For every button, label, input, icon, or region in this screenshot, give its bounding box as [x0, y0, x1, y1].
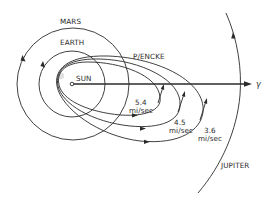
trajectory-3-6-tip-arrow [204, 98, 207, 104]
trajectory-4-5 [57, 59, 185, 131]
comet-label: P/ENCKE [133, 52, 165, 61]
trajectory-3-6-unit: mi/sec [198, 134, 222, 143]
vernal-equinox-symbol: γ [256, 80, 262, 89]
jupiter-label: JUPITER [220, 161, 249, 170]
orbit-diagram: MARS EARTH SUN P/ENCKE γ 5.4 mi/sec 4.5 … [0, 0, 280, 207]
axis-arrow [244, 81, 252, 87]
earth-orbit-arrow [40, 61, 45, 68]
earth-label: EARTH [60, 38, 84, 47]
sun-marker [70, 82, 74, 86]
trajectory-4-5-unit: mi/sec [169, 126, 193, 135]
trajectory-4-5-tip-arrow [182, 91, 185, 97]
mars-label: MARS [60, 17, 81, 26]
sun-label: SUN [76, 74, 92, 83]
trajectory-3-6-arrow [144, 140, 150, 144]
trajectory-4-5-arrow [140, 127, 146, 131]
trajectory-5-4-unit: mi/sec [129, 106, 153, 115]
trajectory-5-4-tip-arrow [161, 84, 164, 90]
